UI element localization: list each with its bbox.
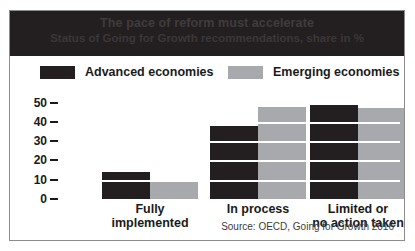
bar-group-2	[210, 89, 306, 201]
bar-advanced-3	[310, 103, 358, 199]
y-axis-tick-0: 0	[40, 193, 58, 205]
legend-item-emerging: Emerging economies	[228, 63, 399, 81]
bar-group-1	[102, 89, 198, 201]
chart-figure: The pace of reform must accelerate Statu…	[9, 10, 405, 241]
y-axis-tick-mark-icon	[50, 198, 58, 200]
legend-swatch-emerging-icon	[228, 66, 263, 79]
y-axis-tick-mark-icon	[50, 140, 58, 142]
plot-area: 01020304050	[10, 89, 404, 201]
y-axis-tick-label: 20	[34, 153, 47, 167]
bar-emerging-3	[358, 108, 405, 199]
y-axis-tick-10: 10	[34, 174, 58, 186]
y-axis-tick-40: 40	[34, 116, 58, 128]
source-note: Source: OECD, Going for Growth 2016	[221, 221, 394, 232]
y-axis-tick-30: 30	[34, 135, 58, 147]
bars-area	[62, 89, 400, 201]
chart-title: The pace of reform must accelerate	[10, 16, 404, 30]
y-axis-tick-mark-icon	[50, 121, 58, 123]
chart-subtitle: Status of Going for Growth recommendatio…	[10, 31, 404, 45]
bar-advanced-1	[102, 172, 150, 199]
title-banner: The pace of reform must accelerate Statu…	[10, 11, 404, 56]
legend-label-advanced: Advanced economies	[85, 65, 214, 79]
bar-group-3	[310, 89, 405, 201]
y-axis: 01020304050	[10, 89, 58, 201]
y-axis-tick-label: 30	[34, 134, 47, 148]
y-axis-tick-20: 20	[34, 154, 58, 166]
y-axis-tick-label: 10	[34, 173, 47, 187]
y-axis-tick-mark-icon	[50, 179, 58, 181]
legend-swatch-advanced-icon	[40, 66, 75, 79]
y-axis-tick-label: 50	[34, 96, 47, 110]
bar-emerging-2	[258, 107, 306, 200]
chart-legend: Advanced economies Emerging economies	[10, 63, 404, 83]
y-axis-tick-mark-icon	[50, 159, 58, 161]
bar-emerging-1	[150, 182, 198, 199]
y-axis-tick-50: 50	[34, 97, 58, 109]
y-axis-tick-label: 40	[34, 115, 47, 129]
legend-label-emerging: Emerging economies	[273, 65, 399, 79]
legend-item-advanced: Advanced economies	[40, 63, 214, 81]
bar-advanced-2	[210, 126, 258, 199]
y-axis-tick-label: 0	[40, 192, 47, 206]
y-axis-tick-mark-icon	[50, 102, 58, 104]
